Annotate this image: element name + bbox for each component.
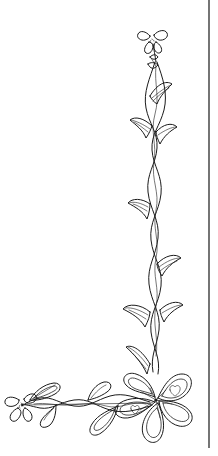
page-background <box>0 0 218 456</box>
artwork-page: Floral corner border line drawing <box>0 0 218 456</box>
floral-corner-border-illustration <box>0 0 218 456</box>
